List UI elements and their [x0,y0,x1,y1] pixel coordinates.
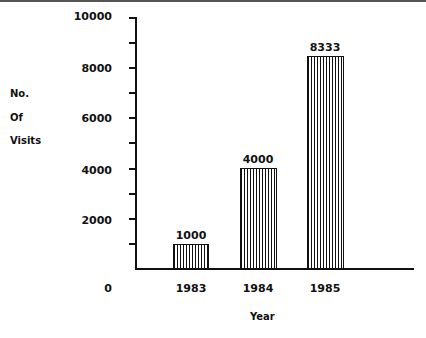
y-tick [129,142,136,144]
y-tick [129,193,136,195]
bar-value-label: 4000 [233,153,283,166]
y-tick-label: 0 [52,282,112,295]
y-tick-label: 2000 [52,214,112,227]
y-tick [129,243,136,245]
x-tick-label: 1984 [233,282,283,295]
bar-value-label: 1000 [166,229,216,242]
y-axis [135,17,137,270]
y-tick-label: 8000 [52,62,112,75]
y-tick-labels: 10000 8000 6000 4000 2000 0 [52,0,112,338]
x-tick-label: 1985 [300,282,350,295]
y-axis-label-line: No. [10,88,29,99]
x-tick-label: 1983 [166,282,216,295]
y-tick [129,42,136,44]
y-axis-label-line: Visits [10,135,41,146]
y-tick [129,218,136,220]
y-tick [129,17,136,19]
bar-value-label: 8333 [300,41,350,54]
bar-1984 [240,168,277,269]
y-tick-label: 10000 [52,10,112,23]
y-tick-label: 6000 [52,112,112,125]
bar-1985 [307,56,344,269]
x-axis-label: Year [250,311,275,322]
y-tick [129,168,136,170]
y-tick-label: 4000 [52,164,112,177]
y-tick [129,67,136,69]
y-tick [129,117,136,119]
y-tick [129,92,136,94]
bar-1983 [173,244,209,269]
y-axis-label-line: Of [10,112,23,123]
